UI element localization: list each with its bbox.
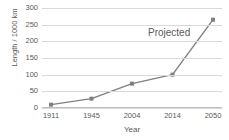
- x-axis-title: Year: [42, 125, 222, 134]
- x-tick-label: 2014: [153, 111, 193, 120]
- gridline: [42, 58, 222, 59]
- data-point-marker: [211, 18, 215, 22]
- x-tick-label: 2050: [193, 111, 229, 120]
- y-tick-label: 150: [14, 54, 38, 62]
- gridline: [42, 41, 222, 42]
- data-point-marker: [130, 82, 134, 86]
- data-point-marker: [90, 97, 94, 101]
- x-tick-label: 1911: [31, 111, 71, 120]
- y-tick-label: 250: [14, 21, 38, 29]
- gridline: [42, 8, 222, 9]
- y-tick-label: 300: [14, 4, 38, 12]
- y-tick-label: 50: [14, 87, 38, 95]
- x-tick-label: 1945: [72, 111, 112, 120]
- plot-area: [42, 8, 222, 108]
- gridline: [42, 25, 222, 26]
- gridline: [42, 91, 222, 92]
- x-axis-tick-labels: 19111945200420142050: [42, 111, 222, 125]
- y-tick-label: 200: [14, 37, 38, 45]
- projected-annotation: Projected: [148, 27, 190, 38]
- x-axis-line: [42, 107, 222, 108]
- line-chart: Length / 1000 km 050100150200250300 1911…: [0, 0, 229, 140]
- gridline: [42, 75, 222, 76]
- gridline: [42, 108, 222, 109]
- x-tick-label: 2004: [112, 111, 152, 120]
- y-tick-label: 100: [14, 71, 38, 79]
